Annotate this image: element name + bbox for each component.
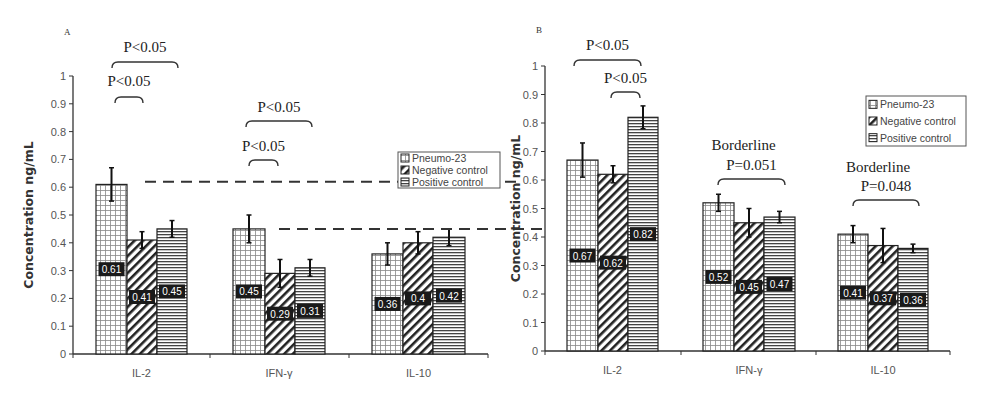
panel-b-y-tick-label: 0.2 xyxy=(523,288,538,300)
panel-b-y-tick-label: 0.4 xyxy=(523,231,538,243)
panel-b-category-label: IFN-γ xyxy=(736,364,763,376)
panel-a-y-tick-label: 0 xyxy=(60,348,66,360)
panel-a-y-tick-label: 0.5 xyxy=(51,209,66,221)
panel-a-y-tick-label: 0.2 xyxy=(51,292,66,304)
panel-b-y-axis-label: Concentration ng/mL xyxy=(508,135,523,283)
panel-b-y-tick-label: 0.3 xyxy=(523,260,538,272)
panel-a-legend-label: Pneumo-23 xyxy=(412,152,466,164)
panel-b-y-tick-label: 0.6 xyxy=(523,174,538,186)
panel-b-data-label: 0.36 xyxy=(903,295,923,306)
panel-b-y-tick-label: 1 xyxy=(532,60,538,72)
panel-b-data-label: 0.62 xyxy=(603,258,623,269)
panel-b-y-tick-label: 0 xyxy=(532,345,538,357)
panel-a-legend-swatch xyxy=(401,178,409,186)
panel-b-significance-bracket xyxy=(718,179,785,185)
panel-b-data-label: 0.47 xyxy=(770,279,790,290)
panel-b-y-tick-label: 0.7 xyxy=(523,146,538,158)
panel-b-legend-swatch xyxy=(869,134,877,142)
panel-a: A00.10.20.30.40.50.60.70.80.91Concentrat… xyxy=(21,27,545,379)
panel-b-letter: B xyxy=(536,25,542,35)
panel-b-annotation-p-value: P=0.048 xyxy=(861,178,912,194)
panel-a-annotation: P<0.05 xyxy=(242,138,285,154)
panel-a-legend-swatch xyxy=(401,154,409,162)
panel-b-data-label: 0.37 xyxy=(873,293,893,304)
panel-a-letter: A xyxy=(64,27,71,37)
panel-a-legend-label: Negative control xyxy=(412,164,488,176)
panel-b-legend-label: Positive control xyxy=(880,132,951,144)
panel-a-annotation: P<0.05 xyxy=(257,99,300,115)
panel-b-data-label: 0.45 xyxy=(739,282,759,293)
panel-a-y-tick-label: 0.6 xyxy=(51,181,66,193)
panel-b-annotation: Borderline xyxy=(711,137,775,153)
panel-a-y-tick-label: 0.8 xyxy=(51,126,66,138)
panel-b-data-label: 0.82 xyxy=(633,229,653,240)
panel-a-data-label: 0.61 xyxy=(102,264,122,275)
panel-a-data-label: 0.31 xyxy=(300,306,320,317)
panel-b: B00.10.20.30.40.50.60.70.80.91Concentrat… xyxy=(508,25,966,376)
panel-a-data-label: 0.45 xyxy=(162,286,182,297)
panel-a-data-label: 0.36 xyxy=(378,299,398,310)
panel-b-annotation: Borderline xyxy=(846,159,910,175)
panel-b-legend-label: Pneumo-23 xyxy=(880,98,934,110)
panel-b-y-tick-label: 0.1 xyxy=(523,317,538,329)
panel-a-significance-bracket xyxy=(246,121,312,127)
panel-a-y-tick-label: 0.9 xyxy=(51,98,66,110)
panel-a-significance-bracket xyxy=(249,160,278,166)
panel-b-annotation-p-value: P=0.051 xyxy=(726,157,777,173)
panel-a-significance-bracket xyxy=(115,97,143,103)
panel-b-legend-swatch xyxy=(869,117,877,125)
panel-a-y-tick-label: 0.1 xyxy=(51,320,66,332)
panel-a-legend-label: Positive control xyxy=(412,176,483,188)
panel-a-y-tick-label: 0.3 xyxy=(51,265,66,277)
panel-a-data-label: 0.4 xyxy=(411,293,425,304)
figure: A00.10.20.30.40.50.60.70.80.91Concentrat… xyxy=(0,0,996,403)
panel-a-legend-swatch xyxy=(401,166,409,174)
panel-a-y-tick-label: 1 xyxy=(60,70,66,82)
panel-a-y-axis-label: Concentration ng/mL xyxy=(21,141,36,289)
panel-a-category-label: IFN-γ xyxy=(266,367,293,379)
panel-a-annotation: P<0.05 xyxy=(107,73,150,89)
panel-b-significance-bracket xyxy=(574,60,641,66)
panel-b-legend-swatch xyxy=(869,100,877,108)
panel-a-data-label: 0.41 xyxy=(132,292,152,303)
panel-a-data-label: 0.42 xyxy=(439,291,459,302)
panel-b-category-label: IL-2 xyxy=(603,364,622,376)
panel-b-y-tick-label: 0.5 xyxy=(523,203,538,215)
panel-b-data-label: 0.67 xyxy=(573,251,593,262)
panel-b-data-label: 0.41 xyxy=(843,288,863,299)
panel-a-significance-bracket xyxy=(112,62,178,68)
panel-a-y-tick-label: 0.7 xyxy=(51,153,66,165)
panel-b-significance-bracket xyxy=(853,200,919,206)
panel-b-y-tick-label: 0.9 xyxy=(523,89,538,101)
panel-a-annotation: P<0.05 xyxy=(123,39,166,55)
panel-a-data-label: 0.45 xyxy=(239,286,259,297)
panel-b-data-label: 0.52 xyxy=(709,272,729,283)
panel-b-annotation: P<0.05 xyxy=(586,37,629,53)
panel-b-significance-bracket xyxy=(611,92,640,98)
panel-a-category-label: IL-2 xyxy=(132,367,151,379)
panel-a-data-label: 0.29 xyxy=(270,309,290,320)
panel-b-category-label: IL-10 xyxy=(870,364,895,376)
panel-b-y-tick-label: 0.8 xyxy=(523,117,538,129)
panel-b-annotation: P<0.05 xyxy=(604,70,647,86)
panel-b-legend-label: Negative control xyxy=(880,115,956,127)
panel-a-y-tick-label: 0.4 xyxy=(51,237,66,249)
panel-a-category-label: IL-10 xyxy=(406,367,431,379)
